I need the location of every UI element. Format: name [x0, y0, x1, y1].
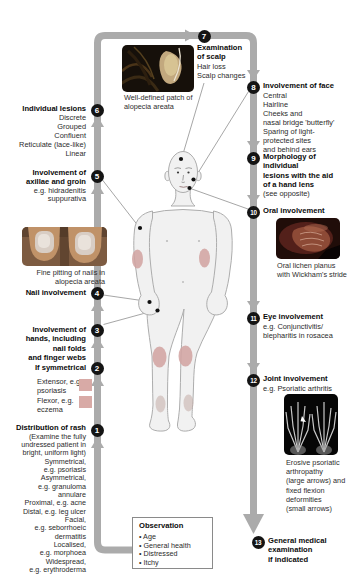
text-line: Involvement of [26, 168, 86, 177]
text-line: protected sites [263, 136, 334, 145]
text-line: nasal bridge 'butterfly' [263, 118, 334, 127]
step-5-badge: 5 [91, 170, 104, 183]
step-10-badge: 10 [247, 206, 260, 219]
oral-caption: Oral lichen planuswith Wickham's stride [277, 261, 347, 279]
text-line: Morphology of [263, 152, 333, 161]
text-line: Well-defined patch of [124, 93, 192, 102]
step-1-badge: 1 [91, 424, 104, 437]
text-line: suppurativa [34, 195, 86, 204]
step-8-items: CentralHairlineCheeks andnasal bridge 'b… [263, 91, 334, 154]
text-line: Hairline [263, 100, 334, 109]
text-line: of a hand lens [263, 180, 333, 189]
step-6-badge: 6 [91, 104, 104, 117]
step-5-title: Involvement ofaxillae and groin [26, 168, 86, 187]
text-line: Linear [19, 150, 86, 159]
text-line: General medical [268, 536, 327, 545]
text-line: if indicated [268, 555, 327, 564]
scalp-caption: Well-defined patch ofalopecia areata [124, 93, 192, 111]
text-line: Erosive psoriatic [286, 458, 345, 467]
text-line: deformities [286, 495, 345, 504]
text-line: with Wickham's stride [277, 270, 347, 279]
nails-caption: Fine pitting of nails inalopecia areata [36, 268, 105, 286]
text-line: blepharitis in rosacea [263, 331, 333, 340]
step-2-title: If symmetrical [35, 363, 86, 372]
text-line: e.g. erythroderma [21, 566, 86, 574]
step-2-badge: 2 [91, 362, 104, 375]
step-11-items: e.g. Conjunctivitis/blepharitis in rosac… [263, 322, 333, 341]
step-12-badge: 12 [247, 374, 260, 387]
observation-items: • Age• General health• Distressed• Itchy [139, 533, 212, 567]
step-1-title: Distribution of rash [16, 423, 86, 432]
step-9-badge: 9 [247, 152, 260, 165]
step-1-items: (Examine the fullyundressed patient inbr… [21, 433, 86, 575]
step-4-title: Nail involvement [26, 288, 86, 297]
text-line: Central [263, 91, 334, 100]
text-line: (small arrows) [286, 504, 345, 513]
oral-photo [276, 218, 340, 259]
text-line: individual [263, 161, 333, 170]
step-12-title: Joint involvement [263, 374, 328, 383]
nails-photo [22, 227, 107, 266]
step-3-title: Involvement ofhands, includingnail folds… [26, 325, 86, 362]
observation-title: Observation [139, 521, 212, 530]
step-8-title: Involvement of face [263, 81, 334, 90]
text-line: Sparing of light- [263, 127, 334, 136]
step-11-badge: 11 [247, 312, 260, 325]
text-line: hands, including [26, 334, 86, 343]
text-line: nail folds [26, 344, 86, 353]
step-8-badge: 8 [247, 81, 260, 94]
text-line: Cheeks and [263, 109, 334, 118]
step-5-items: e.g. hidradenitissuppurativa [34, 187, 86, 205]
text-line: psoriasis [37, 386, 82, 395]
step-11-title: Eye involvement [263, 312, 323, 321]
observation-box: Observation • Age• General health• Distr… [132, 517, 213, 569]
step-7-title: Examinationof scalp [197, 43, 242, 62]
text-line: (large arrows) and [286, 476, 345, 485]
text-line: of scalp [197, 52, 242, 61]
text-line: alopecia areata [36, 277, 105, 286]
flexor-swatch [79, 396, 92, 408]
text-line: eczema [37, 405, 82, 414]
text-line: fixed flexion [286, 486, 345, 495]
text-line: Hair loss [197, 62, 245, 71]
step-9-note: (see opposite) [263, 190, 310, 199]
text-line: Examination [197, 43, 242, 52]
step-7-items: Hair lossScalp changes [197, 62, 245, 81]
observation-item: • Itchy [139, 559, 212, 568]
dermatology-examination-diagram: 1 2 3 4 5 6 7 8 9 10 11 12 13 Individual… [0, 0, 347, 587]
step-10-title: Oral involvement [263, 206, 325, 215]
body-head [169, 152, 198, 193]
text-line: Involvement of [26, 325, 86, 334]
step-13-badge: 13 [252, 536, 265, 549]
text-line: Scalp changes [197, 71, 245, 80]
step-4-badge: 4 [91, 287, 104, 300]
text-line: Flexor, e.g. [37, 396, 82, 405]
step-2-items: Extensor, e.g.psoriasisFlexor, e.g.eczem… [37, 377, 82, 414]
text-line: and finger webs [26, 353, 86, 362]
text-line: alopecia areata [124, 102, 192, 111]
step-13-title: General medicalexaminationif indicated [268, 536, 327, 564]
xray-caption: Erosive psoriaticarthropathy(large arrow… [286, 458, 345, 513]
text-line: e.g. Psoriatic arthritis [263, 384, 332, 393]
extensor-swatch [79, 379, 92, 391]
body-trunk-legs [143, 210, 223, 432]
text-line: arthropathy [286, 467, 345, 476]
text-line: Fine pitting of nails in [36, 268, 105, 277]
step-6-items: DiscreteGroupedConfluentReticulate (lace… [19, 114, 86, 159]
body-figure [134, 152, 232, 432]
xray-photo [284, 394, 338, 455]
scalp-photo [122, 45, 194, 92]
text-line: Oral lichen planus [277, 261, 347, 270]
text-line: lesions with the aid [263, 171, 333, 180]
text-line: e.g. Conjunctivitis/ [263, 322, 333, 331]
text-line: examination [268, 545, 327, 554]
arrowhead-right-icon [185, 30, 196, 42]
step-3-badge: 3 [91, 324, 104, 337]
step-6-title: Individual lesions [22, 104, 86, 113]
step-9-title: Morphology ofindividuallesions with the … [263, 152, 333, 189]
step-7-badge: 7 [198, 30, 211, 43]
step-12-items: e.g. Psoriatic arthritis [263, 384, 332, 393]
text-line: Extensor, e.g. [37, 377, 82, 386]
